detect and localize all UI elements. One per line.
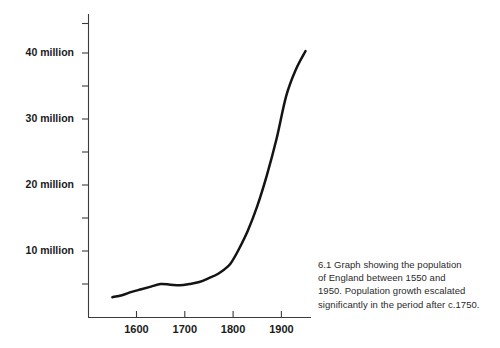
population-graph-figure: 40 million 30 million 20 million 10 mill… bbox=[0, 0, 500, 348]
y-axis bbox=[82, 14, 89, 318]
x-axis bbox=[88, 311, 311, 318]
x-axis-label-1600: 1600 bbox=[124, 323, 148, 335]
x-axis-label-1900: 1900 bbox=[269, 323, 293, 335]
y-axis-labels: 40 million 30 million 20 million 10 mill… bbox=[26, 46, 74, 256]
caption-line-4: significantly in the period after c.1750… bbox=[318, 298, 490, 311]
y-axis-label-30: 30 million bbox=[26, 112, 74, 124]
caption-line-3: 1950. Population growth escalated bbox=[318, 284, 490, 297]
x-axis-labels: 1600 1700 1800 1900 bbox=[124, 323, 293, 335]
x-axis-label-1700: 1700 bbox=[173, 323, 197, 335]
y-axis-label-10: 10 million bbox=[26, 244, 74, 256]
y-axis-label-20: 20 million bbox=[26, 178, 74, 190]
caption-line-1: 6.1 Graph showing the population bbox=[318, 258, 490, 271]
caption-line-2: of England between 1550 and bbox=[318, 271, 490, 284]
y-axis-label-40: 40 million bbox=[26, 46, 74, 58]
population-curve bbox=[112, 51, 305, 297]
figure-caption: 6.1 Graph showing the population of Engl… bbox=[318, 258, 490, 311]
x-axis-label-1800: 1800 bbox=[221, 323, 245, 335]
